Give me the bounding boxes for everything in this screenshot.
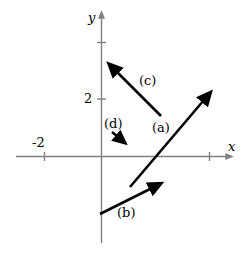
arrow-label-c: (c) [139,74,156,87]
x-axis-label: x [228,140,235,153]
arrow-label-d: (d) [104,117,122,130]
arrow-label-a: (a) [152,121,170,134]
arrow-d [112,132,118,137]
y-tick-label-2: 2 [84,92,92,105]
x-axis [16,152,226,161]
vector-arrow-figure: y x -2 2 (a) (b) (c) (d) [0,0,251,257]
arrow-a [130,100,204,187]
arrow-label-b: (b) [117,206,135,219]
x-tick-label-neg2: -2 [32,136,45,149]
y-axis-label: y [88,11,95,24]
